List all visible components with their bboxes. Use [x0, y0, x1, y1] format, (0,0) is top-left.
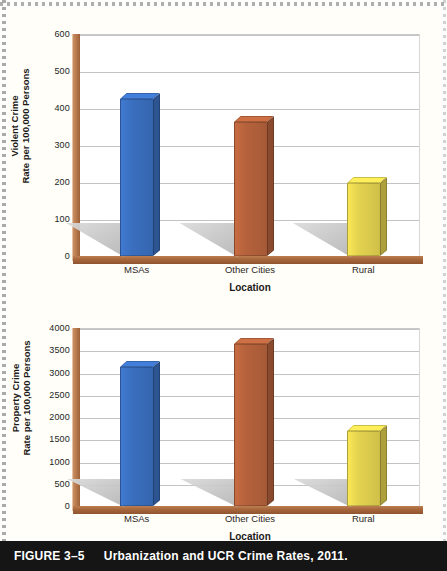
chart-property-crime: Property Crime Rate per 100,000 Persons …: [8, 304, 440, 540]
bar-side-face: [153, 361, 160, 506]
bar-front-face: [234, 344, 267, 506]
x-axis-tick-label: Other Cities: [193, 264, 306, 275]
bar: [234, 122, 267, 256]
bar-top-face: [120, 93, 160, 99]
bar-shadow: [293, 223, 351, 257]
plot-background: [80, 328, 420, 506]
x-axis-tick-label: MSAs: [80, 513, 193, 524]
gridline: [80, 35, 419, 36]
bar-top-face: [234, 116, 274, 122]
chart-violent-crime: Violent Crime Rate per 100,000 Persons L…: [8, 14, 440, 296]
scan-edge-top: [0, 2, 447, 6]
scan-edge-right: [443, 0, 446, 571]
bar-shadow: [180, 223, 238, 257]
bar-side-face: [380, 177, 387, 256]
plot-area: [80, 34, 420, 256]
y-axis-tick-label: 3500: [8, 346, 70, 355]
bar: [120, 367, 153, 506]
bar-side-face: [267, 339, 274, 506]
y-axis-tick-label: 200: [8, 178, 70, 187]
figure-caption-bar: FIGURE 3–5 Urbanization and UCR Crime Ra…: [0, 541, 447, 571]
bar-front-face: [120, 367, 153, 506]
y-axis-tick-label: 4000: [8, 324, 70, 333]
gridline: [80, 72, 419, 73]
y-axis-title-line1: Violent Crime: [9, 36, 20, 216]
y-axis-tick-label: 1500: [8, 435, 70, 444]
violent-crime-plot: Violent Crime Rate per 100,000 Persons L…: [8, 14, 440, 296]
y-axis-tick-label: 1000: [8, 457, 70, 466]
bar-front-face: [234, 122, 267, 256]
bar-top-face: [234, 338, 274, 344]
y-axis-tick-label: 3000: [8, 368, 70, 377]
bar-front-face: [347, 183, 380, 256]
plot-area: [80, 328, 420, 506]
scan-edge-left: [2, 0, 6, 571]
bar-side-face: [153, 93, 160, 256]
gridline: [80, 329, 419, 330]
axis-floor: [73, 506, 423, 514]
y-axis-title-violent: Violent Crime Rate per 100,000 Persons: [9, 36, 31, 216]
plot-background: [80, 34, 420, 256]
x-axis-tick-label: MSAs: [80, 264, 193, 275]
x-axis-title-violent: Location: [80, 282, 420, 293]
bar: [234, 344, 267, 506]
y-axis-tick-label: 0: [8, 502, 70, 511]
bar-front-face: [347, 431, 380, 506]
bar-shadow: [293, 479, 351, 507]
y-axis-tick-label: 500: [8, 67, 70, 76]
y-axis-tick-label: 100: [8, 215, 70, 224]
bar-front-face: [120, 99, 153, 256]
y-axis-title-line2: Rate per 100,000 Persons: [20, 36, 31, 216]
figure-caption-title: Urbanization and UCR Crime Rates, 2011.: [104, 549, 348, 563]
y-axis-tick-label: 2500: [8, 390, 70, 399]
y-axis-tick-label: 300: [8, 141, 70, 150]
x-axis-tick-label: Other Cities: [193, 513, 306, 524]
bar-top-face: [347, 425, 387, 431]
bar: [347, 431, 380, 506]
x-axis-tick-label: Rural: [307, 513, 420, 524]
y-axis-tick-label: 400: [8, 104, 70, 113]
bar-top-face: [347, 177, 387, 183]
y-axis-tick-label: 600: [8, 30, 70, 39]
property-crime-plot: Property Crime Rate per 100,000 Persons …: [8, 304, 440, 540]
y-axis-tick-label: 2000: [8, 413, 70, 422]
figure-caption: FIGURE 3–5 Urbanization and UCR Crime Ra…: [0, 549, 348, 563]
bar-shadow: [180, 479, 238, 507]
figure-page: Violent Crime Rate per 100,000 Persons L…: [0, 0, 447, 571]
y-axis-tick-label: 500: [8, 479, 70, 488]
bar-side-face: [380, 425, 387, 506]
bar: [120, 99, 153, 256]
bar: [347, 183, 380, 256]
figure-body: Violent Crime Rate per 100,000 Persons L…: [8, 8, 440, 535]
x-axis-tick-label: Rural: [307, 264, 420, 275]
figure-caption-number: FIGURE 3–5: [14, 549, 85, 563]
bar-side-face: [267, 116, 274, 256]
axis-floor: [73, 256, 423, 264]
y-axis-tick-label: 0: [8, 252, 70, 261]
